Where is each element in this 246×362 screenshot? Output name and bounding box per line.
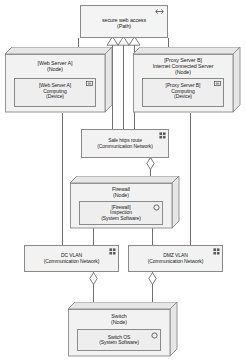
aggregation-diamond-dmz-vlan — [148, 272, 157, 285]
https-route-label: Safe https route (Communication Network) — [82, 130, 168, 149]
web-server-a-device-box[interactable]: [Web Server A] Computing (Device) — [14, 78, 96, 107]
system-software-icon — [151, 332, 158, 339]
https-route-box[interactable]: Safe https route (Communication Network) — [81, 129, 169, 158]
dc-vlan-box[interactable]: DC VLAN (Communication Network) — [24, 245, 119, 272]
switch-node-label: Switch (Node) — [68, 313, 170, 325]
firewall-node-label: Firewall (Node) — [70, 186, 172, 198]
proxy-server-b-device-box[interactable]: [Proxy Server B] Computing (Device) — [142, 78, 224, 107]
connector-generalization-stem-2 — [123, 44, 124, 131]
dmz-vlan-box[interactable]: DMZ VLAN (Communication Network) — [128, 245, 223, 272]
proxy-server-b-node-label: [Proxy Server B] Internet Connected Serv… — [133, 57, 233, 75]
deployment-diagram-canvas: secure web access (Path) [Web Server A] … — [0, 0, 246, 362]
network-icon — [109, 248, 116, 255]
firewall-software-label: [Firewall] Inspection (System Software) — [80, 202, 162, 221]
dc-vlan-label: DC VLAN (Communication Network) — [25, 246, 118, 264]
aggregation-diamond-dc-vlan — [89, 272, 98, 285]
switch-software-box[interactable]: Switch OS (System Software) — [77, 329, 161, 351]
proxy-server-b-node[interactable]: [Proxy Server B] Internet Connected Serv… — [133, 47, 241, 113]
dmz-vlan-label: DMZ VLAN (Communication Network) — [129, 246, 222, 264]
aggregation-diamond-firewall — [146, 157, 155, 170]
firewall-node[interactable]: Firewall (Node) [Firewall] Inspection (S… — [70, 176, 180, 229]
web-server-a-device-label: [Web Server A] Computing (Device) — [15, 79, 95, 100]
proxy-server-b-device-label: [Proxy Server B] Computing (Device) — [143, 79, 223, 100]
system-software-icon — [153, 204, 160, 211]
connector-firewall-to-dmz-vlan — [152, 228, 153, 246]
device-icon — [86, 81, 93, 87]
path-link-icon — [155, 8, 164, 15]
connector-proxy-server-to-dmz-vlan — [190, 113, 191, 245]
firewall-software-box[interactable]: [Firewall] Inspection (System Software) — [79, 201, 163, 225]
network-icon — [213, 248, 220, 255]
path-box[interactable]: secure web access (Path) — [80, 5, 168, 38]
web-server-a-node[interactable]: [Web Server A] (Node) [Web Server A] Com… — [5, 47, 113, 113]
switch-node[interactable]: Switch (Node) Switch OS (System Software… — [68, 302, 178, 357]
network-icon — [159, 132, 166, 139]
connector-web-server-to-dc-vlan — [62, 113, 63, 245]
switch-software-label: Switch OS (System Software) — [78, 330, 160, 346]
device-icon — [214, 81, 221, 87]
web-server-a-node-label: [Web Server A] (Node) — [5, 60, 105, 72]
connector-firewall-to-dc-vlan — [93, 228, 94, 246]
